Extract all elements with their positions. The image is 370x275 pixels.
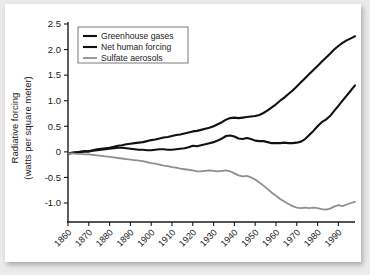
radiative-forcing-line-chart: Radiative forcing (watts per square mete… [0, 0, 370, 275]
legend-item-label: Greenhouse gases [101, 31, 174, 41]
x-tick-label: 1870 [73, 227, 94, 248]
legend-item-label: Sulfate aerosols [101, 53, 163, 63]
chart-page: Radiative forcing (watts per square mete… [0, 0, 370, 275]
x-tick-label: 1900 [135, 227, 156, 248]
y-tick-label: 2.5 [48, 18, 61, 29]
series-line-sulfate-aerosols [68, 153, 355, 209]
x-tick-label: 1960 [260, 227, 281, 248]
y-tick-label: 1.5 [48, 69, 61, 80]
series-line-net-human-forcing [68, 85, 355, 153]
y-tick-label: 0 [56, 146, 61, 157]
x-axis-ticks: 1860187018801890190019101920193019401950… [52, 222, 344, 249]
legend-item-label: Net human forcing [101, 42, 171, 52]
x-tick-label: 1950 [239, 227, 260, 248]
x-tick-label: 1940 [219, 227, 240, 248]
x-tick-label: 1910 [156, 227, 177, 248]
x-tick-label: 1880 [94, 227, 115, 248]
y-tick-label: 0.5 [48, 121, 61, 132]
y-tick-label: 1.0 [48, 95, 61, 106]
y-axis-title-line2: (watts per square meter) [22, 76, 33, 179]
x-tick-label: 1980 [302, 227, 323, 248]
y-tick-label: -1.0 [45, 197, 61, 208]
y-axis-ticks: 2.52.01.51.00.50-0.5-1.0 [45, 18, 68, 208]
y-axis-title: Radiative forcing (watts per square mete… [9, 76, 33, 179]
x-tick-label: 1890 [115, 227, 136, 248]
chart-legend: Greenhouse gasesNet human forcingSulfate… [78, 27, 188, 63]
chart-figure: Radiative forcing (watts per square mete… [0, 0, 370, 275]
x-tick-label: 1860 [52, 227, 73, 248]
x-tick-label: 1920 [177, 227, 198, 248]
y-axis-title-line1: Radiative forcing [9, 93, 20, 164]
x-tick-label: 1930 [198, 227, 219, 248]
y-tick-label: -0.5 [45, 172, 61, 183]
y-tick-label: 2.0 [48, 44, 61, 55]
x-tick-label: 1990 [323, 227, 344, 248]
x-tick-label: 1970 [281, 227, 302, 248]
